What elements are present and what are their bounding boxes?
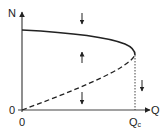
x-axis-label: Q (151, 104, 160, 116)
bifurcation-diagram: N Q 0 0 Qc (0, 0, 164, 135)
stable-branch (22, 30, 135, 55)
origin-y-label: 0 (9, 104, 15, 116)
unstable-branch (22, 55, 135, 110)
origin-x-label: 0 (19, 116, 25, 128)
critical-q-label: Qc (129, 116, 142, 128)
y-axis-label: N (8, 7, 16, 19)
